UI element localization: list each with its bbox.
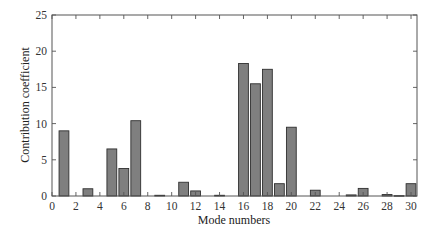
y-tick-label: 5	[41, 154, 47, 166]
bar-mode-19	[274, 184, 284, 196]
x-tick-label: 24	[333, 200, 345, 212]
y-tick-label: 10	[36, 118, 48, 130]
x-tick-label: 28	[381, 200, 393, 212]
bar-mode-18	[263, 69, 273, 196]
x-tick-label: 6	[121, 200, 127, 212]
y-axis-title: Contribution coefficient	[18, 47, 32, 163]
y-tick-label: 20	[36, 45, 48, 57]
x-axis-title: Mode numbers	[198, 213, 271, 227]
x-tick-label: 14	[214, 200, 226, 212]
bar-mode-16	[239, 64, 249, 196]
y-tick-label: 25	[36, 9, 48, 21]
bar-mode-11	[179, 182, 189, 196]
x-tick-label: 30	[405, 200, 417, 212]
bar-mode-17	[251, 84, 261, 196]
bar-mode-3	[83, 189, 93, 196]
x-tick-label: 20	[286, 200, 298, 212]
y-tick-label: 15	[36, 81, 48, 93]
x-tick-label: 2	[73, 200, 79, 212]
bar-chart: 024681012141618202224262830 0510152025 M…	[0, 0, 439, 240]
x-tick-labels: 024681012141618202224262830	[49, 200, 417, 212]
x-tick-label: 26	[357, 200, 369, 212]
x-tick-label: 8	[145, 200, 151, 212]
x-tick-label: 22	[310, 200, 322, 212]
x-tick-label: 16	[238, 200, 250, 212]
x-tick-label: 4	[97, 200, 103, 212]
x-tick-label: 18	[262, 200, 274, 212]
bar-mode-6	[119, 168, 129, 196]
bar-mode-1	[59, 131, 69, 196]
x-tick-label: 0	[49, 200, 55, 212]
bars-group	[59, 64, 416, 197]
x-tick-label: 12	[190, 200, 202, 212]
bar-mode-5	[107, 149, 117, 196]
y-tick-labels: 0510152025	[36, 9, 48, 202]
x-tick-label: 10	[166, 200, 178, 212]
bar-mode-20	[286, 127, 296, 196]
y-tick-label: 0	[41, 190, 47, 202]
bar-mode-7	[131, 121, 141, 196]
